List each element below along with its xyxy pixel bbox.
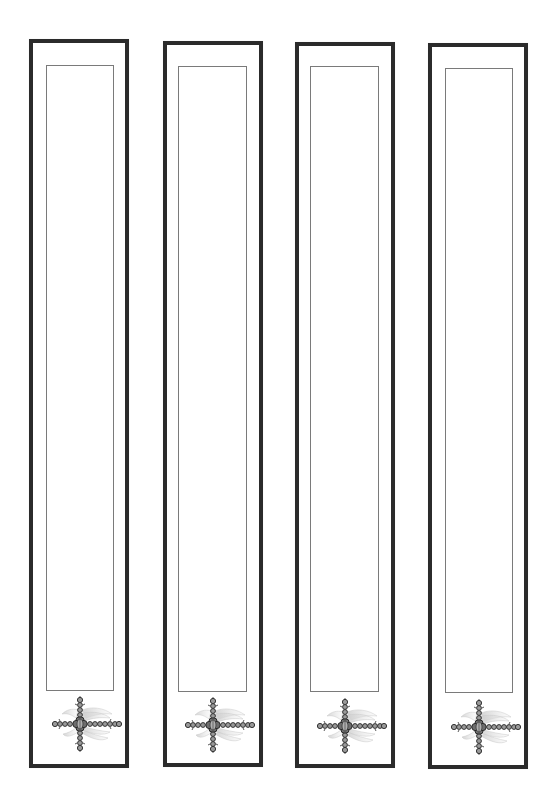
bookmark-inner-frame bbox=[46, 65, 114, 691]
ornate-cross-icon bbox=[52, 696, 122, 752]
bookmark-inner-frame bbox=[310, 66, 379, 692]
ornate-cross-icon bbox=[185, 697, 255, 753]
ornate-cross-icon bbox=[451, 699, 521, 755]
bookmark-inner-frame bbox=[178, 66, 247, 692]
bookmark-card-1 bbox=[29, 39, 129, 768]
bookmark-card-3 bbox=[295, 42, 395, 768]
bookmark-writing-area bbox=[47, 66, 113, 690]
ornate-cross-icon bbox=[317, 698, 387, 754]
bookmark-card-2 bbox=[163, 41, 263, 767]
bookmark-writing-area bbox=[179, 67, 246, 691]
bookmark-writing-area bbox=[446, 69, 512, 692]
bookmark-writing-area bbox=[311, 67, 378, 691]
bookmark-inner-frame bbox=[445, 68, 513, 693]
bookmark-card-4 bbox=[428, 43, 528, 769]
